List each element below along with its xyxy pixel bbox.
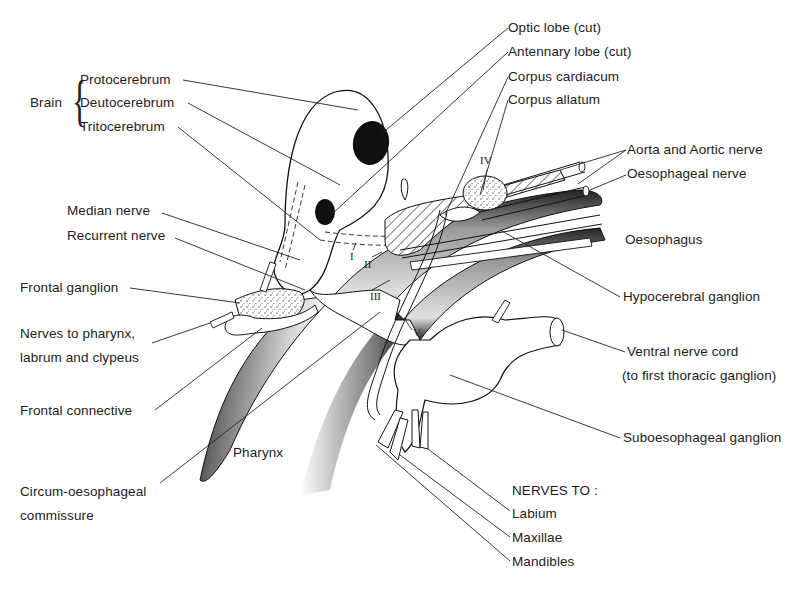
label-pharynx: Pharynx (233, 445, 283, 461)
diagram-canvas: Brain { Protocerebrum Deutocerebrum Trit… (0, 0, 811, 591)
label-ventral-nerve-cord-note: (to first thoracic ganglion) (622, 368, 776, 384)
roman-numeral-3: III (370, 290, 381, 302)
label-tritocerebrum: Tritocerebrum (80, 119, 165, 135)
roman-numeral-5: V (413, 326, 421, 338)
label-mandibles: Mandibles (512, 554, 574, 570)
label-ventral-nerve-cord: Ventral nerve cord (627, 344, 738, 360)
label-corpus-cardiacum: Corpus cardiacum (508, 69, 619, 85)
roman-numeral-4: IV (480, 154, 492, 166)
label-deutocerebrum: Deutocerebrum (80, 95, 174, 111)
label-labrum-clypeus: labrum and clypeus (20, 350, 139, 366)
label-brain: Brain (30, 95, 62, 111)
label-labium: Labium (512, 506, 557, 522)
label-hypocerebral-ganglion: Hypocerebral ganglion (623, 289, 760, 305)
label-commissure: commissure (20, 508, 94, 524)
antennary-lobe (315, 199, 335, 225)
label-optic-lobe: Optic lobe (cut) (508, 20, 601, 36)
label-suboesophageal-ganglion: Suboesophageal ganglion (623, 430, 781, 446)
ventral-nerve-cord-cut (550, 318, 564, 346)
label-corpus-allatum: Corpus allatum (508, 92, 600, 108)
label-maxillae: Maxillae (512, 530, 562, 546)
label-frontal-ganglion: Frontal ganglion (20, 280, 118, 296)
label-protocerebrum: Protocerebrum (80, 72, 171, 88)
roman-numeral-2: II (364, 258, 371, 270)
label-circum-oesophageal: Circum-oesophageal (20, 484, 146, 500)
label-oesophagus: Oesophagus (625, 232, 703, 248)
roman-numeral-1: I (350, 250, 354, 262)
label-aorta: Aorta and Aortic nerve (627, 142, 763, 158)
label-oesophageal-nerve: Oesophageal nerve (627, 166, 747, 182)
label-median-nerve: Median nerve (67, 203, 150, 219)
label-recurrent-nerve: Recurrent nerve (67, 228, 165, 244)
label-nerves-to-pharynx: Nerves to pharynx, (20, 326, 135, 342)
label-nerves-to-heading: NERVES TO : (512, 483, 598, 499)
label-frontal-connective: Frontal connective (20, 403, 132, 419)
label-antennary-lobe: Antennary lobe (cut) (508, 44, 632, 60)
